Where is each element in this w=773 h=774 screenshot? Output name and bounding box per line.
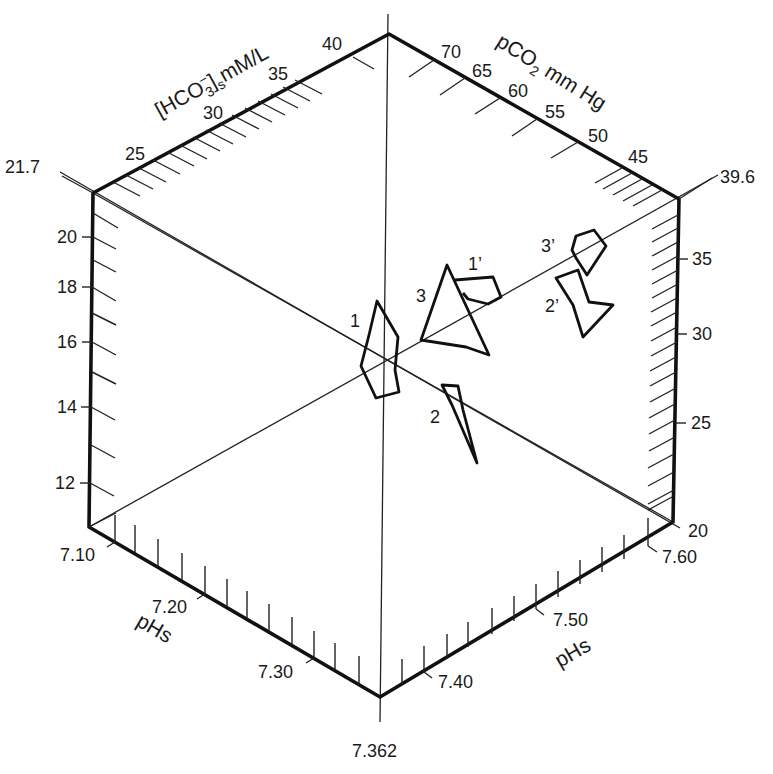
hexagon-nomogram: 1 1’ 2 2’ 3 3’ [HCO3−]smM/L 25 30 35 40 …	[0, 0, 773, 774]
hco3-tick-25: 25	[125, 144, 145, 164]
corner-bracket-left	[89, 513, 116, 527]
hco3-tick-35: 35	[268, 64, 288, 84]
hco3-edge-ticks	[113, 57, 374, 196]
corner-line-21-7	[62, 176, 93, 193]
left-vertical-ticks	[80, 213, 118, 496]
phs-left-tick-7-10: 7.10	[60, 545, 95, 565]
left-tick-16: 16	[57, 332, 77, 352]
vertical-axis-line	[380, 14, 388, 722]
pco2-corner-value: 39.6	[720, 167, 755, 187]
phs-left-tick-7-20: 7.20	[152, 597, 187, 617]
right-tick-25: 25	[691, 413, 711, 433]
right-tick-20: 20	[688, 521, 708, 541]
right-tick-35: 35	[692, 249, 712, 269]
region-label-2: 2	[430, 407, 440, 427]
pco2-tick-50: 50	[588, 126, 608, 146]
diagonal-axis-line-2	[89, 175, 718, 527]
hco3-title-unit: mM/L	[215, 40, 272, 86]
region-label-3: 3	[416, 286, 426, 306]
right-tick-30: 30	[692, 324, 712, 344]
region-label-3-prime: 3’	[541, 236, 555, 256]
left-tick-12: 12	[55, 473, 75, 493]
pco2-tick-70: 70	[441, 42, 461, 62]
pco2-edge-ticks	[409, 60, 662, 206]
region-3-prime	[572, 230, 606, 275]
bottom-corner-value: 7.362	[352, 741, 397, 761]
pco2-tick-65: 65	[472, 61, 492, 81]
phs-right-tick-7-60: 7.60	[662, 547, 697, 567]
phs-left-ticks	[107, 515, 359, 684]
region-2-prime	[556, 270, 613, 337]
phs-right-axis-title: pHs	[551, 633, 595, 672]
region-label-1-prime: 1’	[468, 254, 482, 274]
region-label-2-prime: 2’	[545, 296, 559, 316]
right-vertical-ticks	[648, 215, 688, 504]
left-tick-20: 20	[57, 227, 77, 247]
phs-left-tick-7-30: 7.30	[258, 662, 293, 682]
corner-bracket	[648, 497, 672, 510]
hco3-tick-40: 40	[322, 34, 342, 54]
hco3-tick-30: 30	[203, 103, 223, 123]
pco2-tick-55: 55	[545, 102, 565, 122]
region-2	[442, 385, 477, 463]
region-1	[361, 301, 399, 398]
data-regions	[361, 230, 613, 463]
hco3-corner-value: 21.7	[5, 157, 40, 177]
left-tick-14: 14	[57, 397, 77, 417]
phs-right-tick-7-40: 7.40	[438, 672, 473, 692]
phs-right-tick-7-50: 7.50	[553, 610, 588, 630]
left-tick-18: 18	[57, 277, 77, 297]
corner-line-39-6	[679, 178, 712, 199]
pco2-tick-60: 60	[508, 81, 528, 101]
region-label-1: 1	[350, 311, 360, 331]
pco2-tick-45: 45	[628, 147, 648, 167]
